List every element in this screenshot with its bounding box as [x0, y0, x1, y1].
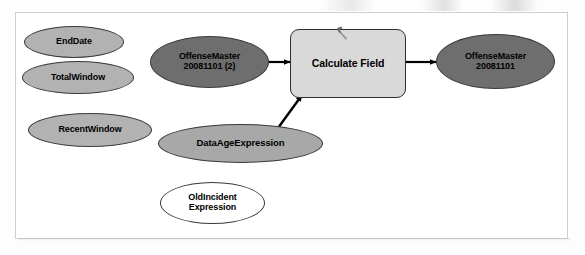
model-diagram-canvas: EndDate TotalWindow RecentWindow Offense…: [0, 0, 585, 255]
hammer-icon: [335, 26, 351, 41]
node-calculate-field[interactable]: Calculate Field: [290, 29, 406, 98]
node-recent-window[interactable]: RecentWindow: [28, 113, 152, 147]
node-old-incident-expression-label: OldIncident Expression: [184, 193, 240, 212]
node-offense-master-input-label: OffenseMaster 20081101 (2): [175, 52, 244, 71]
node-total-window-label: TotalWindow: [47, 73, 109, 83]
node-end-date-label: EndDate: [52, 37, 96, 47]
node-old-incident-expression[interactable]: OldIncident Expression: [160, 182, 265, 224]
node-end-date[interactable]: EndDate: [24, 26, 124, 58]
node-total-window[interactable]: TotalWindow: [22, 61, 134, 94]
node-calculate-field-label: Calculate Field: [308, 58, 389, 69]
node-data-age-expression[interactable]: DataAgeExpression: [158, 124, 323, 163]
node-offense-master-output[interactable]: OffenseMaster 20081101: [436, 34, 555, 89]
node-data-age-expression-label: DataAgeExpression: [192, 138, 288, 148]
scan-artifact: [0, 0, 585, 11]
node-offense-master-input[interactable]: OffenseMaster 20081101 (2): [150, 36, 269, 88]
node-offense-master-output-label: OffenseMaster 20081101: [461, 52, 530, 71]
node-recent-window-label: RecentWindow: [54, 125, 125, 135]
